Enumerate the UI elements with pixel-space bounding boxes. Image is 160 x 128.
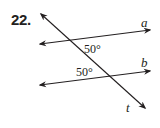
angle-upper-label: 50°: [84, 42, 101, 56]
label-b: b: [141, 55, 148, 70]
parallel-lines-diagram: a b t 50° 50°: [0, 0, 160, 128]
label-t: t: [126, 100, 130, 115]
transversal-line-t: [41, 14, 145, 108]
label-a: a: [141, 15, 148, 30]
line-b: [40, 71, 150, 85]
angle-lower-label: 50°: [76, 65, 93, 79]
